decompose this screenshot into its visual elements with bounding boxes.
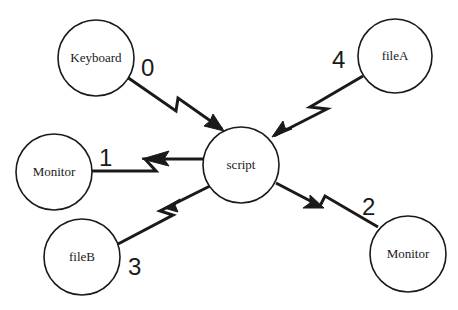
edge-number-label: 0 — [141, 54, 154, 81]
edge-2-script-to-monitor-right: 2 — [276, 183, 378, 227]
edge-number-label: 1 — [99, 144, 112, 171]
node-label: Keyboard — [70, 50, 122, 65]
diagram-svg: 04132 KeyboardfileAscriptMonitorfileBMon… — [0, 0, 458, 310]
node-label: Monitor — [33, 164, 76, 179]
nodes-layer: KeyboardfileAscriptMonitorfileBMonitor — [16, 19, 446, 295]
node-label: Monitor — [387, 246, 430, 261]
arrowhead-icon — [164, 199, 180, 212]
node-script: script — [203, 127, 279, 203]
node-fileA: fileA — [358, 19, 432, 93]
node-monitor-right: Monitor — [370, 216, 446, 292]
edge-3-script-to-fileB: 3 — [118, 186, 210, 280]
lightning-connector-line — [127, 77, 222, 129]
edge-0-keyboard-to-script: 0 — [127, 54, 224, 131]
node-fileB: fileB — [44, 219, 120, 295]
node-keyboard: Keyboard — [58, 20, 134, 96]
node-label: fileB — [69, 249, 95, 264]
process-io-diagram: 04132 KeyboardfileAscriptMonitorfileBMon… — [0, 0, 458, 310]
node-label: script — [227, 157, 256, 172]
lightning-connector-line — [274, 76, 363, 136]
edge-number-label: 3 — [128, 253, 141, 280]
lightning-connector-line — [118, 186, 210, 244]
arrowhead-icon — [204, 114, 224, 131]
edge-number-label: 4 — [332, 46, 345, 73]
arrowhead-icon — [272, 121, 292, 137]
node-label: fileA — [382, 48, 409, 63]
edge-4-fileA-to-script: 4 — [272, 46, 363, 137]
edge-number-label: 2 — [362, 193, 375, 220]
node-monitor-left: Monitor — [16, 134, 92, 210]
edge-1-script-to-monitor-left: 1 — [91, 144, 204, 171]
